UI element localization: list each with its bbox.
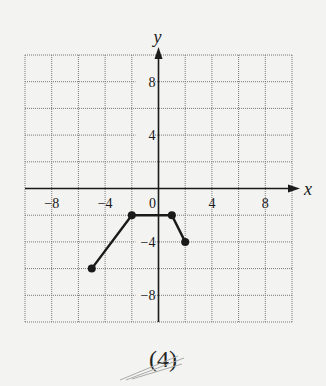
y-tick-label: −4 xyxy=(141,235,156,250)
x-tick-label: 4 xyxy=(208,196,215,211)
x-tick-label: 0 xyxy=(149,196,156,211)
x-tick-label: −8 xyxy=(44,196,59,211)
y-axis-label: y xyxy=(152,27,162,47)
x-tick-label: 8 xyxy=(262,196,269,211)
y-tick-label: 4 xyxy=(149,128,156,143)
x-tick-label: −4 xyxy=(98,196,113,211)
x-axis-arrow-icon xyxy=(288,185,300,193)
closed-dot-point xyxy=(168,211,176,219)
coordinate-plane: xy−8−404884−4−8 xyxy=(0,0,326,340)
closed-dot-point xyxy=(181,238,189,246)
pencil-scribble-mark xyxy=(118,352,188,382)
y-axis-arrow-icon xyxy=(155,47,163,59)
y-tick-label: 8 xyxy=(149,75,156,90)
y-tick-label: −8 xyxy=(141,288,156,303)
x-axis-label: x xyxy=(303,179,312,199)
closed-dot-point xyxy=(88,265,96,273)
closed-dot-point xyxy=(128,211,136,219)
